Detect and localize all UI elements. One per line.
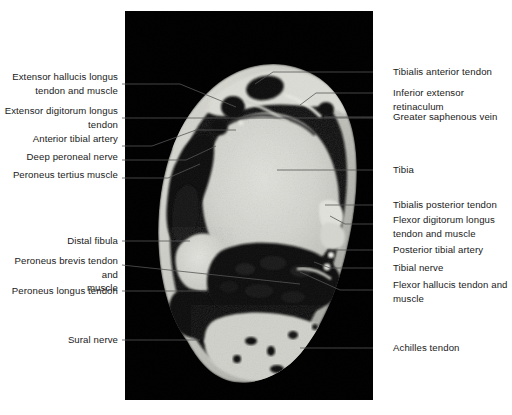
sural-nerve-label: Sural nerve <box>68 333 118 347</box>
mri-image-panel <box>125 11 373 400</box>
background-noise <box>125 11 373 400</box>
greater-saphenous-vein-label: Greater saphenous vein <box>393 110 498 124</box>
peroneus-tertius-muscle-label: Peroneus tertius muscle <box>13 168 118 182</box>
anatomical-mri-figure: Extensor hallucis longus tendon and musc… <box>0 0 512 415</box>
flexor-digitorum-longus-label: Flexor digitorum longus tendon and muscl… <box>393 213 495 240</box>
mri-axial-ankle-section <box>125 11 373 400</box>
posterior-tibial-artery-label: Posterior tibial artery <box>393 243 483 257</box>
tibialis-posterior-tendon-label: Tibialis posterior tendon <box>393 198 497 212</box>
tibialis-anterior-tendon-label: Tibialis anterior tendon <box>393 65 492 79</box>
flexor-hallucis-tendon-and-muscle-label: Flexor hallucis tendon and muscle <box>393 278 508 305</box>
achilles-tendon-label: Achilles tendon <box>393 341 460 355</box>
extensor-digitorum-longus-label: Extensor digitorum longus tendon <box>5 104 118 131</box>
extensor-hallucis-longus-label: Extensor hallucis longus tendon and musc… <box>12 70 118 97</box>
peroneus-longus-tendon-label: Peroneus longus tendon <box>12 284 118 298</box>
tibial-nerve-label: Tibial nerve <box>393 261 443 275</box>
deep-peroneal-nerve-label: Deep peroneal nerve <box>27 150 118 164</box>
anterior-tibial-artery-label: Anterior tibial artery <box>33 132 118 146</box>
tibia-label: Tibia <box>393 163 414 177</box>
distal-fibula-label: Distal fibula <box>67 234 118 248</box>
